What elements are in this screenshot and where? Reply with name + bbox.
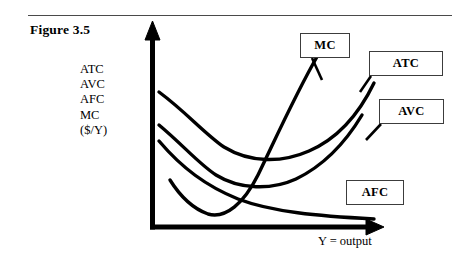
curve-mc <box>170 55 318 215</box>
callout-afc[interactable]: AFC <box>346 180 404 205</box>
curve-atc <box>159 83 374 160</box>
callout-mc[interactable]: MC <box>300 33 350 58</box>
cost-curves-plot <box>0 0 458 263</box>
leader-line-mc <box>312 58 322 80</box>
callout-avc[interactable]: AVC <box>379 99 444 124</box>
curve-avc <box>159 115 362 187</box>
figure-panel: Figure 3.5 ATC AVC AFC MC ($/Y) Y = outp… <box>0 0 458 263</box>
x-axis <box>151 219 385 235</box>
leader-line-avc <box>366 124 381 140</box>
callout-atc[interactable]: ATC <box>369 51 443 76</box>
